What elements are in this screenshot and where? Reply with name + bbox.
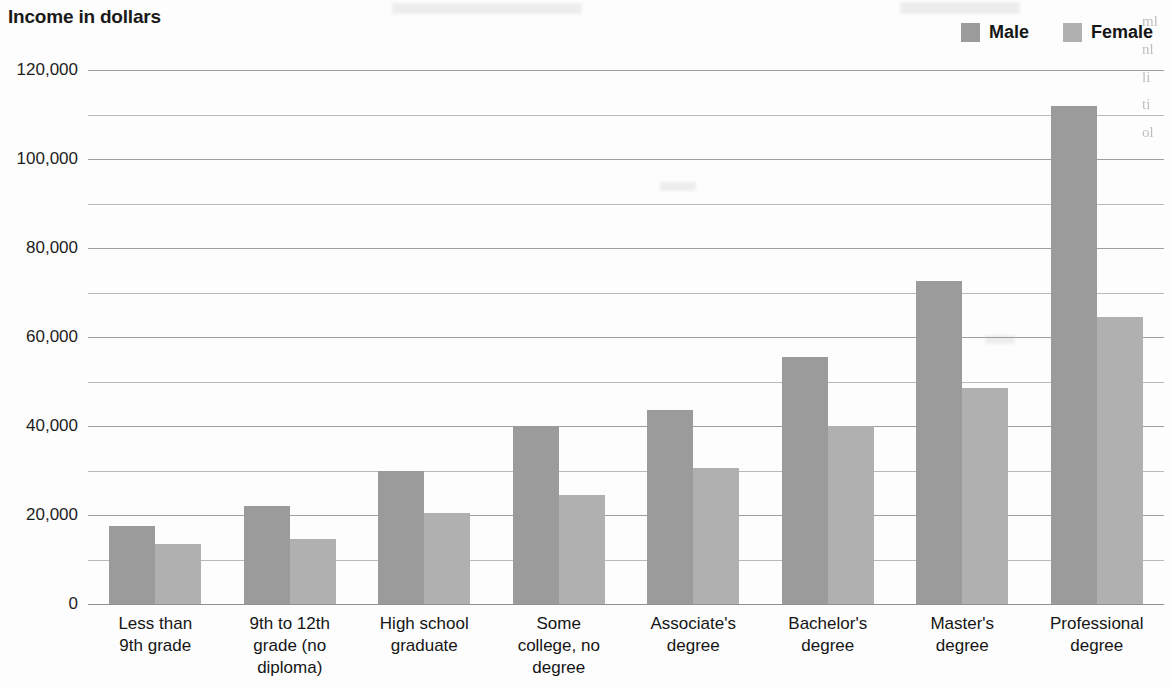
scan-artifact [900,2,1020,14]
bar-group [88,70,223,604]
x-axis-label-line: college, no [494,635,625,657]
margin-text-line: ol [1142,119,1170,147]
legend-swatch-icon [1063,23,1082,42]
y-axis-tick-label: 0 [69,594,78,614]
x-axis-label: Bachelor'sdegree [761,609,896,688]
bar-female [559,495,605,604]
x-axis-label: Associate'sdegree [626,609,761,688]
y-axis: 020,00040,00060,00080,000100,000120,000 [0,70,86,604]
x-axis-label-line: degree [494,657,625,679]
bar-female [828,426,874,604]
y-axis-tick-label: 120,000 [17,60,78,80]
margin-text-line: ml [1142,8,1170,36]
legend-entry-female: Female [1063,22,1153,43]
x-axis-label-line: degree [763,635,894,657]
margin-text-line: li [1142,64,1170,92]
x-axis-label-line: degree [1032,635,1163,657]
x-axis: Less than9th grade9th to 12thgrade (nodi… [88,609,1164,688]
x-axis-label-line: degree [628,635,759,657]
x-axis-label-line: 9th to 12th [225,613,356,635]
page-title: Income in dollars [8,6,161,28]
x-axis-label-line: graduate [359,635,490,657]
x-axis-label-line: diploma) [225,657,356,679]
bar-male [378,471,424,605]
axis-baseline [88,604,1164,605]
bar-group [895,70,1030,604]
bar-female [693,468,739,604]
bar-group [223,70,358,604]
legend-entry-male: Male [961,22,1029,43]
bar-groups [88,70,1164,604]
bar-group [626,70,761,604]
legend-label: Male [989,22,1029,43]
chart-legend: MaleFemale [961,22,1153,43]
x-axis-label-line: Professional [1032,613,1163,635]
x-axis-label-line: grade (no [225,635,356,657]
x-axis-label-line: degree [897,635,1028,657]
y-axis-tick-label: 100,000 [17,149,78,169]
bar-female [962,388,1008,604]
x-axis-label-line: Master's [897,613,1028,635]
bar-male [1051,106,1097,604]
x-axis-label-line: Some [494,613,625,635]
bar-male [782,357,828,604]
bar-male [513,426,559,604]
bar-male [244,506,290,604]
bar-female [155,544,201,604]
x-axis-label-line: Associate's [628,613,759,635]
x-axis-label-line: Bachelor's [763,613,894,635]
y-axis-tick-label: 40,000 [26,416,78,436]
bar-group [357,70,492,604]
x-axis-label: High schoolgraduate [357,609,492,688]
bar-female [1097,317,1143,604]
legend-swatch-icon [961,23,980,42]
y-axis-tick-label: 20,000 [26,505,78,525]
chart-page: Income in dollars MaleFemale 020,00040,0… [0,0,1171,688]
bar-group [492,70,627,604]
margin-text-fragment: mlnllitiol [1142,8,1170,228]
scan-artifact [392,3,582,14]
x-axis-label-line: 9th grade [90,635,221,657]
y-axis-tick-label: 60,000 [26,327,78,347]
bar-female [424,513,470,604]
margin-text-line: nl [1142,36,1170,64]
bar-male [109,526,155,604]
x-axis-label: Less than9th grade [88,609,223,688]
y-axis-tick-label: 80,000 [26,238,78,258]
bar-female [290,539,336,604]
margin-text-line: ti [1142,91,1170,119]
bar-male [647,410,693,604]
x-axis-label: Professionaldegree [1030,609,1165,688]
x-axis-label: Somecollege, nodegree [492,609,627,688]
x-axis-label: Master'sdegree [895,609,1030,688]
bar-male [916,281,962,604]
bar-group [761,70,896,604]
x-axis-label-line: Less than [90,613,221,635]
x-axis-label: 9th to 12thgrade (nodiploma) [223,609,358,688]
x-axis-label-line: High school [359,613,490,635]
